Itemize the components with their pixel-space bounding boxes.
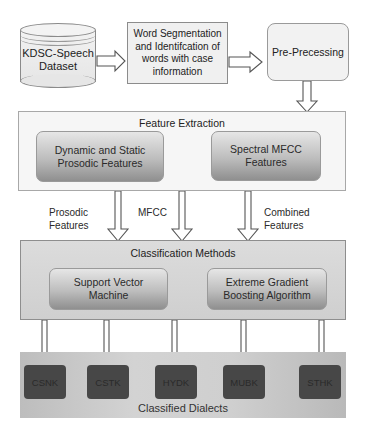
segmentation-line: and Identifcation of: [135, 41, 220, 54]
xgboost-node: Extreme Gradient Boosting Algorithm: [207, 268, 327, 310]
node-line: Prosodic Features: [57, 157, 142, 170]
dialect-label: CSTK: [95, 377, 120, 388]
dataset-label: KDSC-Speech Dataset: [20, 44, 96, 76]
segmentation-line: Word Segmentation: [133, 28, 221, 41]
segmentation-line: information: [153, 66, 202, 79]
arrow-preprocessing-to-features: [297, 81, 317, 112]
node-line: Machine: [89, 289, 129, 302]
svm-node: Support Vector Machine: [49, 268, 168, 310]
node-line: Extreme Gradient: [226, 276, 308, 289]
segmentation-line: words with case: [142, 53, 213, 66]
cylinder-top: [20, 23, 96, 37]
dialect-mubk: MUBK: [223, 365, 265, 399]
edge-label-mfcc: MFCC: [138, 206, 167, 219]
arrow-segmentation-to-preprocessing: [229, 52, 262, 72]
edge-label-line: Features: [264, 219, 310, 232]
arrow-combined-features: [238, 191, 258, 241]
edge-label-line: MFCC: [138, 206, 167, 219]
dialect-label: STHK: [307, 377, 332, 388]
node-line: Dynamic and Static: [55, 144, 145, 157]
edge-label-line: Features: [49, 219, 88, 232]
classification-title: Classification Methods: [21, 247, 345, 259]
node-line: Boosting Algorithm: [223, 289, 311, 302]
dialect-label: HYDK: [163, 377, 189, 388]
dialect-cstk: CSTK: [87, 365, 129, 399]
arrow-prosodic-features: [108, 191, 128, 241]
node-line: Features: [245, 156, 286, 169]
dialect-csnk: CSNK: [24, 365, 66, 399]
segmentation-node: Word Segmentation and Identifcation of w…: [127, 22, 228, 84]
classified-dialects-title: Classified Dialects: [20, 402, 346, 414]
cylinder-base: [20, 74, 96, 88]
node-line: Support Vector: [74, 276, 143, 289]
edge-label-line: Prosodic: [49, 206, 88, 219]
edge-label-prosodic: Prosodic Features: [49, 206, 88, 232]
arrow-mfcc: [172, 191, 192, 241]
dialect-label: CSNK: [32, 377, 58, 388]
edge-label-line: Combined: [264, 206, 310, 219]
arrow-dataset-to-segmentation: [97, 51, 125, 71]
preprocessing-node: Pre-Precessing: [267, 23, 349, 81]
feature-extraction-title: Feature Extraction: [19, 117, 345, 129]
dataset-label-line1: KDSC-Speech: [22, 47, 94, 60]
prosodic-features-node: Dynamic and Static Prosodic Features: [36, 131, 164, 182]
mfcc-features-node: Spectral MFCC Features: [211, 131, 321, 181]
dataset-label-line2: Dataset: [39, 60, 77, 73]
dialect-hydk: HYDK: [155, 365, 197, 399]
node-line: Spectral MFCC: [230, 143, 302, 156]
dialect-sthk: STHK: [299, 365, 341, 399]
preprocessing-label: Pre-Precessing: [272, 46, 344, 58]
edge-label-combined: Combined Features: [264, 206, 310, 232]
dialect-label: MUBK: [230, 377, 257, 388]
